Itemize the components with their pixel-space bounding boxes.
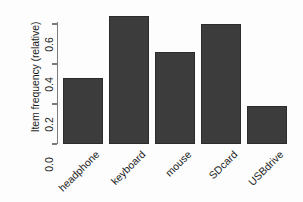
bar-series [59,8,299,144]
y-axis-tick-label: 0.6 [43,24,56,64]
bar [155,52,195,144]
x-axis-labels: headphonekeyboardmouseSDcardUSBdrive [59,144,303,202]
bar [63,78,103,144]
y-axis-title: Item frequency (relative) [26,2,44,152]
bar [247,106,287,144]
y-axis-tick-label: 0.0 [43,144,56,184]
y-axis-tick-label: 0.4 [43,64,56,104]
y-axis-tick-label: 0.2 [43,104,56,144]
bar [109,16,149,144]
bar [201,24,241,144]
bar-chart: Item frequency (relative) 0.00.20.40.6 h… [0,0,303,202]
plot-area [59,8,299,144]
